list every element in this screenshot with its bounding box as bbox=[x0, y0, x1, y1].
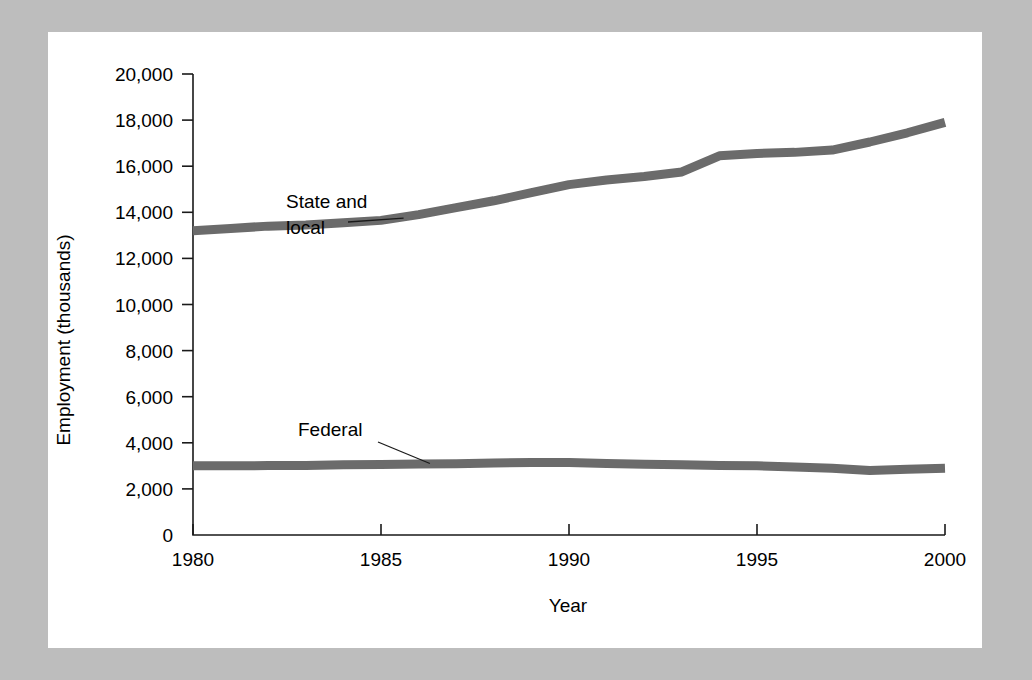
chart-figure-panel: 02,0004,0006,0008,00010,00012,00014,0001… bbox=[48, 32, 982, 648]
screenshot-root: 02,0004,0006,0008,00010,00012,00014,0001… bbox=[0, 0, 1032, 680]
y-tick-label: 18,000 bbox=[115, 110, 173, 131]
y-tick-label: 20,000 bbox=[115, 64, 173, 85]
x-tick-label: 1985 bbox=[360, 549, 402, 570]
y-tick-label: 12,000 bbox=[115, 248, 173, 269]
x-tick-label: 2000 bbox=[924, 549, 966, 570]
series-line-federal bbox=[193, 462, 945, 470]
x-tick-label: 1990 bbox=[548, 549, 590, 570]
y-tick-label: 0 bbox=[162, 525, 173, 546]
series-line-state-and-local bbox=[193, 122, 945, 230]
y-tick-label: 2,000 bbox=[125, 479, 173, 500]
x-tick-label: 1995 bbox=[736, 549, 778, 570]
x-axis-tick-labels: 19801985199019952000 bbox=[172, 549, 966, 570]
y-tick-label: 4,000 bbox=[125, 433, 173, 454]
y-tick-label: 14,000 bbox=[115, 202, 173, 223]
employment-line-chart: 02,0004,0006,0008,00010,00012,00014,0001… bbox=[48, 32, 982, 648]
annotation-label: Federal bbox=[298, 419, 362, 440]
y-tick-label: 10,000 bbox=[115, 295, 173, 316]
series-annotations: State andlocalFederal bbox=[286, 191, 430, 464]
x-tick-label: 1980 bbox=[172, 549, 214, 570]
y-tick-label: 6,000 bbox=[125, 387, 173, 408]
x-axis-title: Year bbox=[549, 595, 588, 616]
y-tick-label: 16,000 bbox=[115, 156, 173, 177]
y-axis-tick-labels: 02,0004,0006,0008,00010,00012,00014,0001… bbox=[115, 64, 173, 546]
y-axis-title: Employment (thousands) bbox=[53, 234, 74, 445]
annotation-label: State andlocal bbox=[286, 191, 367, 238]
y-tick-label: 8,000 bbox=[125, 341, 173, 362]
